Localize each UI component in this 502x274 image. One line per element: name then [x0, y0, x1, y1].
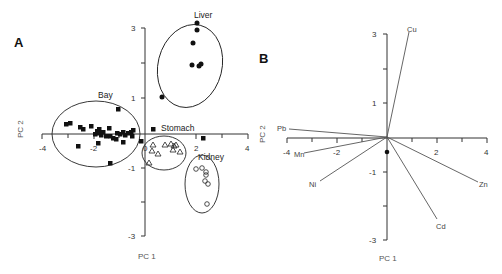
cd-label: Cd — [436, 222, 446, 231]
pb-label: Pb — [277, 124, 286, 133]
panel-a-xtick-m4: -4 — [39, 144, 47, 153]
panel-b-ytick-3: 3 — [372, 30, 377, 39]
panel-b-ytick-m1: -1 — [369, 168, 377, 177]
panel-b-label: B — [259, 51, 268, 66]
panel-b-ytick-m3: -3 — [369, 236, 377, 245]
panel-b-xtick-m4: -4 — [283, 148, 291, 157]
panel-b-vectors — [289, 32, 478, 219]
panel-b-xtick-2: 2 — [434, 148, 439, 157]
panel-b: B 3 1 -1 -3 -4 -2 2 — [258, 25, 489, 263]
pb-vector — [289, 129, 387, 137]
panel-b-origin-marker — [385, 150, 390, 155]
zn-label: Zn — [479, 180, 488, 189]
panel-a-y-axis — [141, 28, 145, 236]
bay-points — [64, 107, 206, 166]
cu-label: Cu — [407, 25, 417, 34]
kidney-ellipse — [185, 155, 219, 213]
panel-a-ytick-1: 1 — [131, 94, 136, 103]
mn-label: Mn — [294, 150, 304, 159]
panel-a-ytick-m3: -3 — [128, 232, 136, 241]
stomach-points — [146, 141, 183, 165]
panel-a-ytick-3: 3 — [131, 24, 136, 33]
liver-points — [160, 21, 204, 100]
liver-label: Liver — [194, 10, 213, 20]
cu-vector — [387, 32, 409, 137]
panel-a-ytick-m1: -1 — [128, 164, 136, 173]
panel-a: A 3 1 -1 -3 -4 -2 0 2 4 — [14, 10, 250, 261]
panel-a-ellipses — [52, 18, 231, 213]
stomach-label: Stomach — [161, 123, 195, 133]
panel-a-xtick-4: 4 — [245, 144, 250, 153]
panel-b-xtick-4: 4 — [484, 148, 489, 157]
bay-label: Bay — [98, 90, 113, 100]
panel-b-xtick-m2: -2 — [333, 148, 341, 157]
panel-a-ylabel: PC 2 — [16, 120, 25, 138]
panel-b-ylabel: PC 2 — [258, 125, 267, 143]
panel-a-xlabel: PC 1 — [138, 252, 156, 261]
figure: A 3 1 -1 -3 -4 -2 0 2 4 — [0, 0, 502, 274]
ni-label: Ni — [309, 180, 316, 189]
panel-b-ytick-1: 1 — [372, 99, 377, 108]
kidney-points — [194, 166, 211, 207]
panel-a-label: A — [14, 35, 24, 50]
panel-b-xlabel: PC 1 — [379, 254, 397, 263]
kidney-label: Kidney — [198, 152, 225, 162]
